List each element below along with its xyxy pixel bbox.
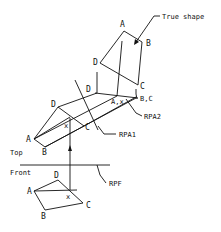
top-polygon (34, 107, 84, 147)
true-A-label: A (120, 20, 125, 29)
front-C-label: C (86, 201, 91, 210)
top-view-label: Top (10, 149, 23, 157)
top-D-label: D (51, 100, 56, 109)
true-shape-polygon (100, 31, 142, 85)
front-B-label: B (41, 212, 46, 221)
projector-A (117, 41, 122, 96)
rpa1-label: RPA1 (119, 131, 136, 139)
front-D-label: D (54, 171, 59, 180)
orthographic-drawing: A B C D True shape D A,x B,C RPA2 D A B … (0, 0, 221, 232)
rpf-leader (97, 165, 106, 183)
projector-top-A (34, 96, 117, 139)
rpf-label: RPF (109, 180, 122, 188)
projector-top-D (58, 93, 97, 107)
aux1-BC-label: B,C (140, 95, 153, 103)
front-x-label: x (66, 193, 70, 201)
front-polygon (34, 180, 83, 210)
true-D-label: D (93, 58, 98, 67)
rpa1-leader (98, 126, 116, 134)
top-B-label: B (42, 148, 47, 157)
true-C-label: C (140, 82, 145, 91)
front-view-label: Front (10, 169, 31, 177)
top-x-label: x (64, 122, 68, 130)
aux1-D-label: D (86, 85, 91, 94)
true-B-label: B (146, 39, 151, 48)
front-Ax-line (34, 190, 77, 191)
top-C-label: C (85, 123, 90, 132)
aux1-tick (136, 94, 137, 99)
projector-top-C (84, 97, 136, 126)
true-shape-view: A B C D True shape (93, 13, 204, 91)
front-view: D A B C x (27, 171, 91, 221)
front-A-label: A (27, 187, 32, 196)
arrow-up-icon (68, 145, 72, 151)
true-shape-label: True shape (162, 13, 204, 21)
rpa2-label: RPA2 (144, 113, 161, 121)
top-A-label: A (26, 135, 31, 144)
